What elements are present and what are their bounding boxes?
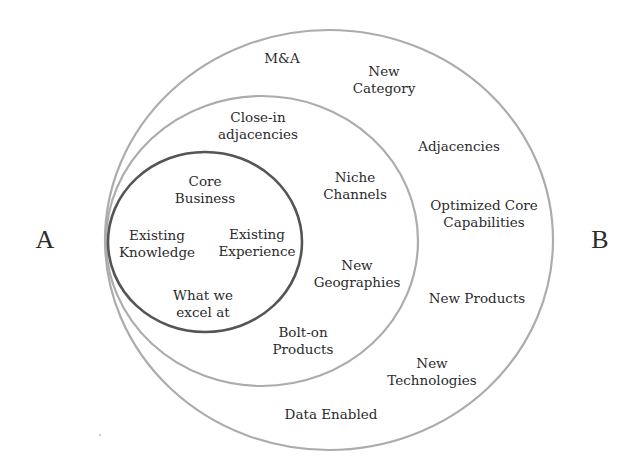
label-existing-experience: Existing Experience <box>218 226 295 260</box>
side-label-b: B <box>591 225 608 255</box>
label-existing-knowledge: Existing Knowledge <box>119 227 195 261</box>
label-optimized-core-capabilities: Optimized Core Capabilities <box>430 197 538 231</box>
label-new-geographies: New Geographies <box>314 257 401 291</box>
label-core-business: Core Business <box>175 173 235 207</box>
stray-dot <box>99 434 101 436</box>
label-new-products: New Products <box>429 290 526 307</box>
label-data-enabled: Data Enabled <box>285 406 378 423</box>
label-what-we-excel-at: What we excel at <box>173 287 233 321</box>
label-new-technologies: New Technologies <box>387 355 476 389</box>
nested-circle-diagram: A B Core Business Existing Knowledge Exi… <box>0 0 640 464</box>
side-label-a: A <box>36 225 55 255</box>
label-m-and-a: M&A <box>264 50 300 67</box>
label-close-in-adjacencies: Close-in adjacencies <box>218 109 298 143</box>
circle-rings <box>0 0 640 464</box>
label-new-category: New Category <box>353 63 416 97</box>
label-bolt-on-products: Bolt-on Products <box>273 324 334 358</box>
label-adjacencies: Adjacencies <box>418 138 500 155</box>
label-niche-channels: Niche Channels <box>323 169 387 203</box>
